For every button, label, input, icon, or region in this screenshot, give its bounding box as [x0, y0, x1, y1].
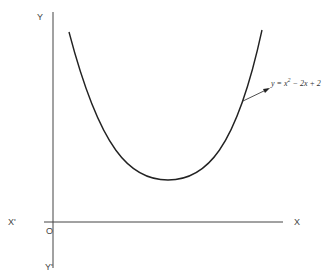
x-axis-label: X [294, 217, 300, 227]
x-negative-label: X' [8, 217, 16, 227]
equation-suffix: − 2x + 2 [291, 79, 321, 88]
y-axis-label: Y [37, 12, 43, 22]
equation-prefix: y = x [271, 79, 288, 88]
parabola-curve [69, 30, 262, 180]
origin-label: O [46, 226, 53, 236]
y-negative-label: Y' [45, 262, 53, 272]
arrow-head-icon [263, 88, 270, 93]
equation-label: y = x2 − 2x + 2 [271, 77, 321, 88]
